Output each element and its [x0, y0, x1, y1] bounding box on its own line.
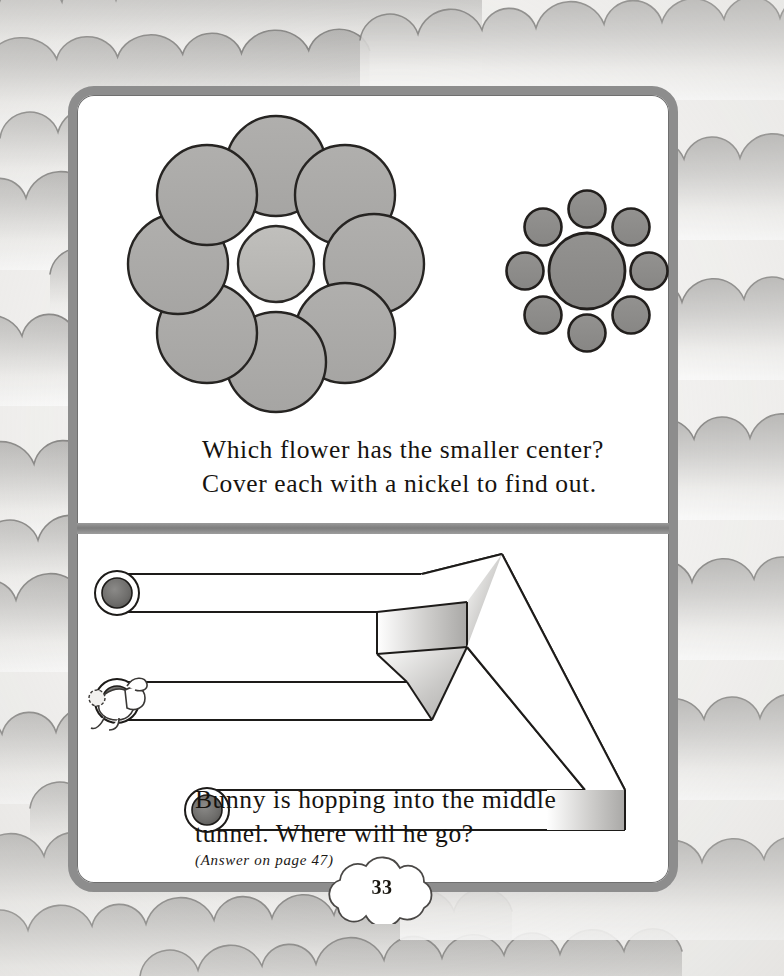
tunnel-opening-top	[95, 571, 139, 615]
large-flower-center	[238, 226, 314, 302]
flower-caption-line-1: Which flower has the smaller center?	[202, 435, 604, 464]
small-flower	[507, 191, 668, 352]
small-flower-center	[549, 233, 625, 309]
bunny-caption-line-1: Bunny is hopping into the middle	[195, 785, 556, 814]
large-flower	[128, 116, 424, 412]
flower-caption-line-2: Cover each with a nickel to find out.	[202, 469, 597, 498]
puzzle-panel-flower-centers: Which flower has the smaller center? Cov…	[77, 95, 669, 523]
puzzle-page-frame: Which flower has the smaller center? Cov…	[68, 86, 678, 892]
page-number: 33	[322, 876, 442, 899]
bunny-puzzle-caption: Bunny is hopping into the middle tunnel.…	[195, 783, 556, 851]
puzzle-panel-bunny-tunnel: Bunny is hopping into the middle tunnel.…	[77, 534, 669, 883]
bunny-caption-line-2: tunnel. Where will he go?	[195, 819, 474, 848]
page-number-badge: 33	[322, 856, 442, 924]
answer-reference-note: (Answer on page 47)	[195, 852, 334, 869]
page-canvas: Which flower has the smaller center? Cov…	[0, 0, 784, 976]
panel-divider	[77, 523, 669, 534]
flower-puzzle-caption: Which flower has the smaller center? Cov…	[202, 433, 604, 501]
